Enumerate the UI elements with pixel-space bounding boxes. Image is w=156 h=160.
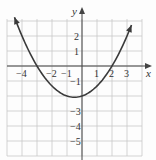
x-tick-label: −4 <box>16 68 27 79</box>
y-tick-label: −4 <box>70 121 81 132</box>
parabola-graph: −4−2−112321−1−3−4−5 x y <box>0 0 156 160</box>
y-axis-arrow-icon <box>79 7 85 14</box>
y-tick-label: −3 <box>70 106 81 117</box>
x-tick-label: −2 <box>46 68 57 79</box>
y-tick-label: 2 <box>74 31 79 42</box>
x-axis-label: x <box>145 67 151 79</box>
x-tick-label: 1 <box>94 68 99 79</box>
y-tick-label: −5 <box>70 136 81 147</box>
y-tick-label: 1 <box>74 46 79 57</box>
y-tick-label: −1 <box>70 76 81 87</box>
curve-arrowheads <box>14 17 132 32</box>
x-tick-label: 3 <box>124 68 129 79</box>
y-axis-label: y <box>71 5 77 17</box>
